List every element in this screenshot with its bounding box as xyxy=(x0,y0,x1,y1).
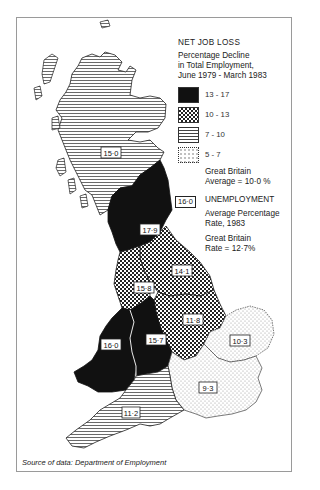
legend-item-10-13: 10 - 13 xyxy=(178,106,290,123)
unemployment-desc-1: Average Percentage xyxy=(205,209,290,219)
svg-text:14·1: 14·1 xyxy=(174,267,189,276)
legend-subtitle-3: June 1979 - March 1983 xyxy=(178,71,290,81)
solid-black-swatch-icon xyxy=(178,87,199,103)
unemployment-desc-2: Rate, 1983 xyxy=(205,219,290,229)
label-south-west: 11·2 xyxy=(122,407,140,418)
svg-text:10·3: 10·3 xyxy=(232,337,247,346)
legend-subtitle-1: Percentage Decline xyxy=(178,51,290,61)
svg-text:15·8: 15·8 xyxy=(136,284,151,293)
legend-item-13-17: 13 - 17 xyxy=(178,86,290,103)
svg-text:11·2: 11·2 xyxy=(124,409,138,418)
svg-text:15·0: 15·0 xyxy=(103,149,118,158)
svg-text:16·0: 16·0 xyxy=(103,341,118,350)
label-wales: 16·0 xyxy=(101,339,121,350)
label-north-west: 15·8 xyxy=(134,282,154,293)
legend-item-7-10: 7 - 10 xyxy=(178,126,290,143)
svg-text:17·9: 17·9 xyxy=(142,226,157,235)
legend-title: NET JOB LOSS xyxy=(178,38,290,48)
legend-subtitle-2: in Total Employment, xyxy=(178,61,290,71)
legend-item-5-7: 5 - 7 xyxy=(178,146,290,163)
label-west-midlands: 15·7 xyxy=(146,334,166,345)
dotted-swatch-icon xyxy=(178,147,199,163)
label-east-midlands: 11·8 xyxy=(183,314,203,325)
gb-rate-value: Rate = 12·7% xyxy=(205,244,290,254)
gb-average-value: Average = 10·0 % xyxy=(205,177,290,187)
label-north: 17·9 xyxy=(140,224,160,235)
gb-rate-label: Great Britain xyxy=(205,234,290,244)
svg-text:9·3: 9·3 xyxy=(203,384,214,393)
legend: NET JOB LOSS Percentage Decline in Total… xyxy=(178,38,290,254)
lined-swatch-icon xyxy=(178,127,199,143)
unemployment-example-box: 16·0 xyxy=(175,196,196,208)
label-yorkshire: 14·1 xyxy=(172,265,192,276)
gb-average-label: Great Britain xyxy=(205,167,290,177)
unemployment-title: UNEMPLOYMENT xyxy=(205,195,290,205)
label-east-anglia: 10·3 xyxy=(230,335,250,346)
label-south-east: 9·3 xyxy=(199,382,217,393)
label-scotland: 15·0 xyxy=(101,147,121,158)
source-note: Source of data: Department of Employment xyxy=(22,458,166,467)
svg-text:11·8: 11·8 xyxy=(186,316,200,325)
checkered-swatch-icon xyxy=(178,107,199,123)
svg-text:15·7: 15·7 xyxy=(148,336,163,345)
